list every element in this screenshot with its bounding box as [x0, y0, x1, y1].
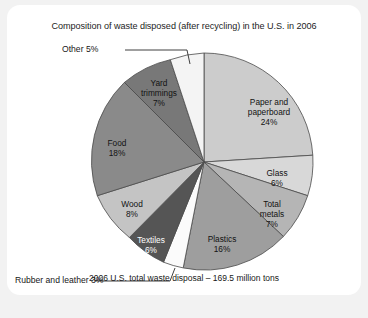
figure-root: Composition of waste disposed (after rec…: [0, 0, 368, 318]
pie-slice-paper-and-paperboard[interactable]: [204, 53, 313, 162]
chart-footnote: 2006 U.S. total waste disposal – 169.5 m…: [7, 273, 361, 283]
pie-chart-svg: [7, 5, 361, 295]
chart-card: Composition of waste disposed (after rec…: [7, 5, 361, 295]
pie-callout-other: Other 5%: [62, 44, 98, 54]
